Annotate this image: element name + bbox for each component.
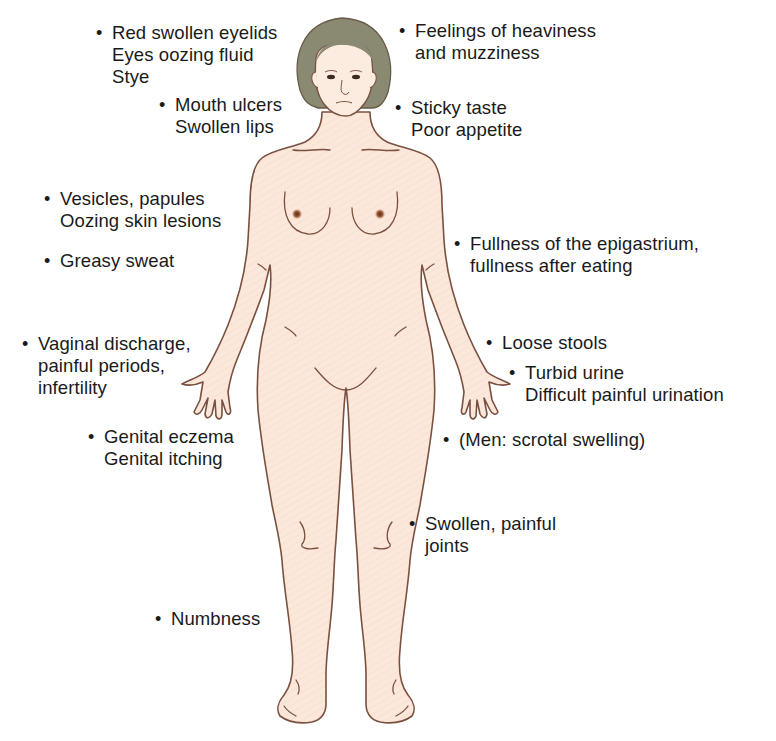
label-genital: • Genital eczema Genital itching xyxy=(104,426,234,470)
label-urine: • Turbid urine Difficult painful urinati… xyxy=(525,362,724,406)
bullet-icon: • xyxy=(509,362,515,384)
bullet-icon: • xyxy=(22,333,28,355)
label-gynecologic: • Vaginal discharge, painful periods, in… xyxy=(38,333,191,399)
bullet-icon: • xyxy=(399,20,405,42)
label-taste: • Sticky taste Poor appetite xyxy=(411,97,522,141)
label-joints: • Swollen, painful joints xyxy=(425,513,556,557)
bullet-icon: • xyxy=(44,250,50,272)
head xyxy=(297,18,390,116)
bullet-icon: • xyxy=(443,429,449,451)
bullet-icon: • xyxy=(395,97,401,119)
bullet-icon: • xyxy=(159,94,165,116)
bullet-icon: • xyxy=(96,22,102,44)
label-epigastrium: • Fullness of the epigastrium, fullness … xyxy=(470,233,699,277)
bullet-icon: • xyxy=(454,233,460,255)
label-numbness: • Numbness xyxy=(171,608,260,630)
bullet-icon: • xyxy=(409,513,415,535)
body-silhouette xyxy=(182,112,510,723)
bullet-icon: • xyxy=(44,188,50,210)
label-sweat: • Greasy sweat xyxy=(60,250,174,272)
left-nipple xyxy=(292,209,303,220)
label-mouth: • Mouth ulcers Swollen lips xyxy=(175,94,282,138)
label-scrotal: • (Men: scrotal swelling) xyxy=(459,429,645,451)
label-eyes: • Red swollen eyelids Eyes oozing fluid … xyxy=(112,22,277,88)
bullet-icon: • xyxy=(155,608,161,630)
label-stools: • Loose stools xyxy=(502,332,607,354)
bullet-icon: • xyxy=(88,426,94,448)
right-nipple xyxy=(375,209,386,220)
label-head: • Feelings of heaviness and muzziness xyxy=(415,20,596,64)
label-skin: • Vesicles, papules Oozing skin lesions xyxy=(60,188,221,232)
bullet-icon: • xyxy=(486,332,492,354)
